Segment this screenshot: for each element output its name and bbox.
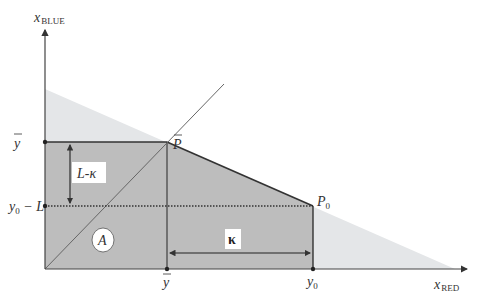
ybar-tick-dot [43,140,47,144]
x-ybar-tick-dot [165,267,169,271]
svg-text:P: P [172,137,182,152]
y-tick-y0-minus-L: y0 − L [7,199,44,216]
svg-text:y: y [12,136,21,151]
horizontal-gap-label: κ [228,232,236,247]
vertical-gap-label: L-κ [76,166,96,181]
p-bar-label: P [172,135,182,152]
y-tick-ybar: y [12,134,22,151]
svg-text:y: y [161,275,170,290]
p0-label: P0 [316,194,331,211]
x-axis-label: xRED [433,277,460,293]
x-tick-ybar: y [161,274,171,290]
y-axis-label: xBLUE [33,10,65,26]
x-y0-tick-dot [311,267,315,271]
region-a-label: A [97,233,107,248]
budget-diagram: L-κ κ A xBLUE xRED P P0 y y0 − L y y0 [0,0,484,301]
x-tick-y0: y0 [305,274,318,291]
